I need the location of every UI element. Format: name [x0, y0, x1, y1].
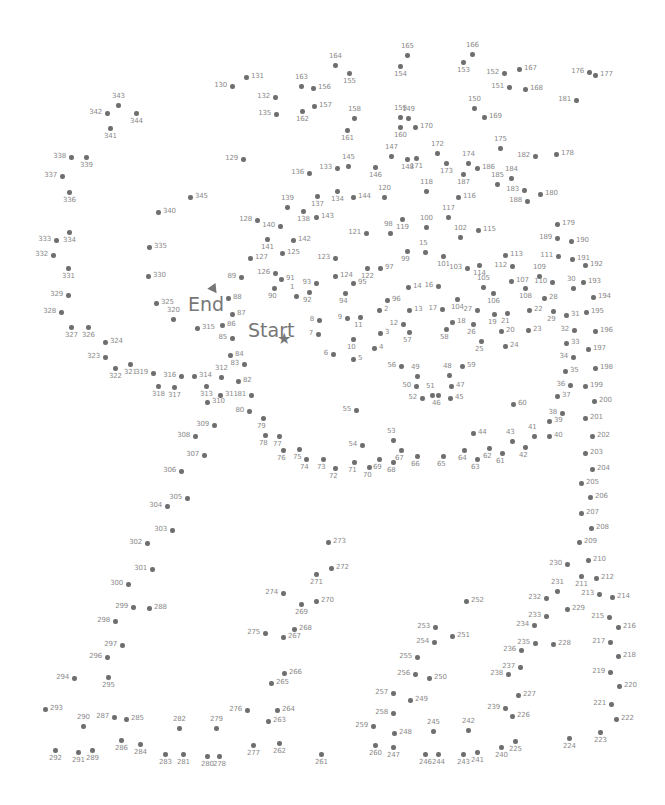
- dot-icon[interactable]: [239, 275, 244, 280]
- dot-icon[interactable]: [81, 724, 86, 729]
- dot-icon[interactable]: [415, 454, 420, 459]
- dot-icon[interactable]: [450, 634, 455, 639]
- dot-icon[interactable]: [592, 399, 597, 404]
- dot-icon[interactable]: [564, 313, 569, 318]
- dot-icon[interactable]: [51, 253, 56, 258]
- dot-icon[interactable]: [609, 702, 614, 707]
- dot-icon[interactable]: [499, 329, 504, 334]
- dot-icon[interactable]: [277, 741, 282, 746]
- dot-icon[interactable]: [112, 715, 117, 720]
- dot-icon[interactable]: [526, 328, 531, 333]
- dot-icon[interactable]: [67, 190, 72, 195]
- dot-icon[interactable]: [527, 308, 532, 313]
- dot-icon[interactable]: [598, 730, 603, 735]
- dot-icon[interactable]: [279, 277, 284, 282]
- dot-icon[interactable]: [593, 366, 598, 371]
- dot-icon[interactable]: [219, 375, 224, 380]
- dot-icon[interactable]: [247, 409, 252, 414]
- dot-icon[interactable]: [398, 64, 403, 69]
- dot-icon[interactable]: [165, 504, 170, 509]
- dot-icon[interactable]: [399, 448, 404, 453]
- dot-icon[interactable]: [510, 714, 515, 719]
- dot-icon[interactable]: [446, 215, 451, 220]
- dot-icon[interactable]: [263, 433, 268, 438]
- dot-icon[interactable]: [461, 172, 466, 177]
- dot-icon[interactable]: [391, 691, 396, 696]
- dot-icon[interactable]: [299, 602, 304, 607]
- dot-icon[interactable]: [523, 445, 528, 450]
- dot-icon[interactable]: [481, 285, 486, 290]
- dot-icon[interactable]: [217, 754, 222, 759]
- dot-icon[interactable]: [280, 251, 285, 256]
- dot-icon[interactable]: [321, 457, 326, 462]
- dot-icon[interactable]: [281, 448, 286, 453]
- dot-icon[interactable]: [278, 224, 283, 229]
- dot-icon[interactable]: [113, 619, 118, 624]
- dot-icon[interactable]: [461, 60, 466, 65]
- dot-icon[interactable]: [475, 308, 480, 313]
- dot-icon[interactable]: [192, 374, 197, 379]
- dot-icon[interactable]: [172, 385, 177, 390]
- dot-icon[interactable]: [556, 254, 561, 259]
- dot-icon[interactable]: [265, 237, 270, 242]
- dot-icon[interactable]: [106, 675, 111, 680]
- dot-icon[interactable]: [542, 296, 547, 301]
- dot-icon[interactable]: [66, 266, 71, 271]
- dot-icon[interactable]: [244, 75, 249, 80]
- dot-icon[interactable]: [311, 86, 316, 91]
- dot-icon[interactable]: [565, 562, 570, 567]
- dot-icon[interactable]: [577, 540, 582, 545]
- dot-icon[interactable]: [134, 111, 139, 116]
- dot-icon[interactable]: [103, 340, 108, 345]
- dot-icon[interactable]: [614, 717, 619, 722]
- dot-icon[interactable]: [405, 249, 410, 254]
- dot-icon[interactable]: [544, 596, 549, 601]
- dot-icon[interactable]: [360, 443, 365, 448]
- dot-icon[interactable]: [205, 754, 210, 759]
- dot-icon[interactable]: [275, 708, 280, 713]
- dot-icon[interactable]: [230, 84, 235, 89]
- dot-icon[interactable]: [170, 528, 175, 533]
- dot-icon[interactable]: [297, 447, 302, 452]
- dot-icon[interactable]: [119, 738, 124, 743]
- dot-icon[interactable]: [433, 625, 438, 630]
- dot-icon[interactable]: [315, 194, 320, 199]
- dot-icon[interactable]: [424, 225, 429, 230]
- dot-icon[interactable]: [475, 166, 480, 171]
- dot-icon[interactable]: [69, 325, 74, 330]
- dot-icon[interactable]: [589, 526, 594, 531]
- dot-icon[interactable]: [444, 161, 449, 166]
- dot-icon[interactable]: [179, 469, 184, 474]
- dot-icon[interactable]: [571, 286, 576, 291]
- dot-icon[interactable]: [156, 210, 161, 215]
- dot-icon[interactable]: [516, 693, 521, 698]
- dot-icon[interactable]: [587, 70, 592, 75]
- dot-icon[interactable]: [455, 297, 460, 302]
- dot-icon[interactable]: [388, 231, 393, 236]
- dot-icon[interactable]: [400, 217, 405, 222]
- dot-icon[interactable]: [432, 640, 437, 645]
- dot-icon[interactable]: [547, 434, 552, 439]
- dot-icon[interactable]: [273, 95, 278, 100]
- dot-icon[interactable]: [347, 71, 352, 76]
- dot-icon[interactable]: [547, 419, 552, 424]
- dot-icon[interactable]: [532, 623, 537, 628]
- dot-icon[interactable]: [590, 434, 595, 439]
- dot-icon[interactable]: [444, 327, 449, 332]
- dot-icon[interactable]: [372, 346, 377, 351]
- dot-icon[interactable]: [314, 281, 319, 286]
- dot-icon[interactable]: [581, 280, 586, 285]
- dot-icon[interactable]: [610, 595, 615, 600]
- dot-icon[interactable]: [506, 672, 511, 677]
- dot-icon[interactable]: [319, 752, 324, 757]
- dot-icon[interactable]: [105, 111, 110, 116]
- dot-icon[interactable]: [54, 238, 59, 243]
- dot-icon[interactable]: [147, 245, 152, 250]
- dot-icon[interactable]: [503, 253, 508, 258]
- dot-icon[interactable]: [544, 614, 549, 619]
- dot-icon[interactable]: [72, 676, 77, 681]
- dot-icon[interactable]: [299, 84, 304, 89]
- dot-icon[interactable]: [156, 384, 161, 389]
- dot-icon[interactable]: [242, 362, 247, 367]
- dot-icon[interactable]: [67, 230, 72, 235]
